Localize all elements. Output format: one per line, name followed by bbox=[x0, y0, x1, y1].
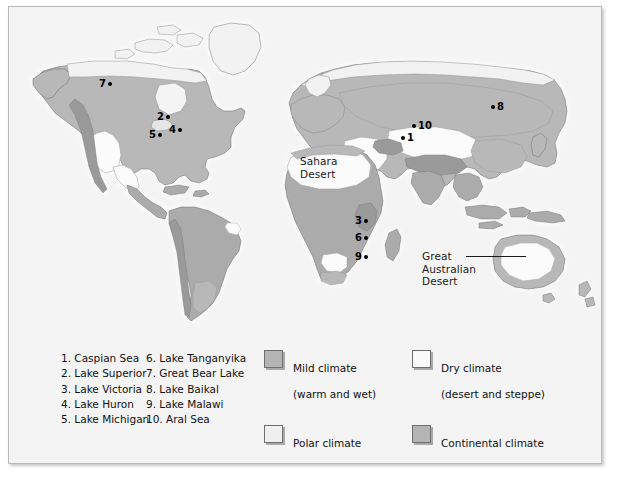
legend-text-dry: Dry climate (desert and steppe) bbox=[441, 349, 545, 414]
legend-title: Dry climate bbox=[441, 362, 545, 375]
map-marker-6-lake-tanganyika[interactable]: 6 bbox=[355, 233, 368, 243]
legend-swatch-polar bbox=[264, 425, 283, 443]
marker-label: 4 bbox=[169, 124, 176, 135]
marker-dot bbox=[364, 219, 368, 223]
lake-list-item: 2. Lake Superior bbox=[61, 366, 149, 381]
marker-label: 1 bbox=[407, 132, 414, 143]
lake-list-column-2: 6. Lake Tanganyika 7. Great Bear Lake 8.… bbox=[146, 351, 246, 427]
legend-swatch-dry bbox=[412, 350, 431, 368]
legend-entry-mild: Mild climate (warm and wet) bbox=[264, 349, 393, 414]
legend-detail: (cold and wet) bbox=[441, 463, 544, 464]
map-marker-7-great-bear-lake[interactable]: 7 bbox=[99, 79, 112, 89]
lake-list-item: 4. Lake Huron bbox=[61, 397, 149, 412]
map-marker-2-lake-superior[interactable]: 2 bbox=[157, 112, 170, 122]
map-marker-5-lake-michigan[interactable]: 5 bbox=[149, 130, 162, 140]
marker-dot bbox=[178, 128, 182, 132]
figure-frame: Sahara Desert Great Australian Desert 1 … bbox=[8, 6, 602, 464]
legend-title: Polar climate bbox=[293, 437, 393, 450]
marker-dot bbox=[412, 124, 416, 128]
marker-dot bbox=[364, 255, 368, 259]
world-climate-figure: Sahara Desert Great Australian Desert 1 … bbox=[0, 0, 617, 490]
climate-legend-column-2: Dry climate (desert and steppe) Continen… bbox=[412, 349, 589, 464]
marker-label: 5 bbox=[149, 129, 156, 140]
lake-list-item: 8. Lake Baikal bbox=[146, 382, 246, 397]
lake-list-item: 10. Aral Sea bbox=[146, 412, 246, 427]
legend-detail: (warm and wet) bbox=[293, 388, 376, 401]
lake-list-item: 7. Great Bear Lake bbox=[146, 366, 246, 381]
marker-dot bbox=[401, 136, 405, 140]
lake-list-item: 9. Lake Malawi bbox=[146, 397, 246, 412]
legend-title: Continental climate bbox=[441, 437, 544, 450]
marker-dot bbox=[491, 105, 495, 109]
map-marker-4-lake-huron[interactable]: 4 bbox=[169, 125, 182, 135]
marker-label: 2 bbox=[157, 111, 164, 122]
lake-list-column-1: 1. Caspian Sea 2. Lake Superior 3. Lake … bbox=[61, 351, 149, 427]
lake-list-item: 5. Lake Michigan bbox=[61, 412, 149, 427]
marker-dot bbox=[364, 236, 368, 240]
legend-entry-dry: Dry climate (desert and steppe) bbox=[412, 349, 589, 414]
legend-entry-continental: Continental climate (cold and wet) bbox=[412, 424, 589, 464]
legend-title: Mild climate bbox=[293, 362, 376, 375]
marker-dot bbox=[158, 133, 162, 137]
lake-list-item: 1. Caspian Sea bbox=[61, 351, 149, 366]
marker-label: 10 bbox=[418, 120, 432, 131]
map-marker-1-caspian-sea[interactable]: 1 bbox=[401, 133, 414, 143]
legend-area: 1. Caspian Sea 2. Lake Superior 3. Lake … bbox=[9, 337, 601, 464]
legend-text-polar: Polar climate (very cold and dry) bbox=[293, 424, 393, 464]
lake-list-item: 6. Lake Tanganyika bbox=[146, 351, 246, 366]
legend-swatch-continental bbox=[412, 425, 431, 443]
marker-label: 3 bbox=[355, 215, 362, 226]
climate-legend-column-1: Mild climate (warm and wet) Polar climat… bbox=[264, 349, 393, 464]
map-marker-9-lake-malawi[interactable]: 9 bbox=[355, 252, 368, 262]
map-marker-10-aral-sea[interactable]: 10 bbox=[412, 121, 432, 131]
map-marker-8-lake-baikal[interactable]: 8 bbox=[491, 102, 504, 112]
map-marker-3-lake-victoria[interactable]: 3 bbox=[355, 216, 368, 226]
marker-label: 7 bbox=[99, 78, 106, 89]
world-map: Sahara Desert Great Australian Desert 1 … bbox=[9, 7, 601, 337]
legend-detail: (very cold and dry) bbox=[293, 463, 393, 464]
legend-text-continental: Continental climate (cold and wet) bbox=[441, 424, 544, 464]
lake-list-item: 3. Lake Victoria bbox=[61, 382, 149, 397]
marker-dot bbox=[108, 82, 112, 86]
legend-entry-polar: Polar climate (very cold and dry) bbox=[264, 424, 393, 464]
legend-swatch-mild bbox=[264, 350, 283, 368]
great-australian-desert-leader-line bbox=[466, 256, 526, 257]
legend-detail: (desert and steppe) bbox=[441, 388, 545, 401]
map-label-sahara-desert: Sahara Desert bbox=[300, 155, 338, 180]
marker-label: 6 bbox=[355, 232, 362, 243]
legend-text-mild: Mild climate (warm and wet) bbox=[293, 349, 376, 414]
marker-dot bbox=[166, 115, 170, 119]
marker-label: 8 bbox=[497, 101, 504, 112]
marker-label: 9 bbox=[355, 251, 362, 262]
